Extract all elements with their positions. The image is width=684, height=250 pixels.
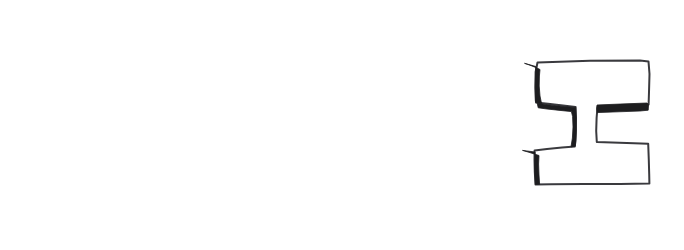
figure-canvas: A wide white rectangle outlined in thin …	[0, 0, 684, 250]
bounding-box	[4, 8, 678, 228]
